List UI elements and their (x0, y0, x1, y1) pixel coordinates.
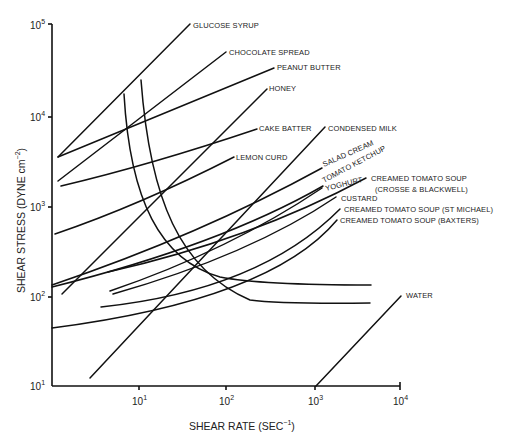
label-crosse-blackwell-1: CREAMED TOMATO SOUP (371, 174, 467, 183)
y-tick-1e5: 105 (30, 18, 45, 31)
label-baxters: CREAMED TOMATO SOUP (BAXTERS) (340, 216, 479, 225)
curve-baxters (52, 220, 337, 328)
label-water: WATER (406, 291, 433, 300)
label-condensed-milk: CONDENSED MILK (328, 124, 397, 133)
label-lemon-curd: LEMON CURD (236, 153, 288, 162)
label-peanut-butter: PEANUT BUTTER (277, 63, 341, 72)
curve-lemon-curd (55, 157, 234, 234)
curve-descending-b (141, 80, 370, 303)
x-tick-1e2: 102 (219, 394, 234, 407)
label-chocolate-spread: CHOCOLATE SPREAD (229, 48, 310, 57)
curve-tomato-ketchup (52, 186, 323, 287)
curve-labels: GLUCOSE SYRUP CHOCOLATE SPREAD PEANUT BU… (193, 21, 493, 300)
x-tick-labels: 101 102 103 104 (132, 394, 408, 407)
x-tick-1e3: 103 (308, 394, 323, 407)
y-axis-title: SHEAR STRESS (DYNE cm−2) (14, 148, 27, 293)
y-tick-1e2: 102 (30, 290, 45, 303)
label-custard: CUSTARD (341, 194, 378, 203)
y-tick-labels: 105 104 103 102 101 (30, 18, 45, 392)
y-tick-1e3: 103 (30, 200, 45, 213)
label-honey: HONEY (269, 84, 296, 93)
x-tick-1e4: 104 (393, 394, 408, 407)
label-st-michael: CREAMED TOMATO SOUP (ST MICHAEL) (344, 205, 493, 214)
x-axis-title: SHEAR RATE (SEC−1) (189, 419, 295, 432)
label-cake-batter: CAKE BATTER (259, 124, 312, 133)
curve-cake-batter (61, 129, 257, 186)
curve-glucose-syrup (58, 24, 190, 157)
curve-water (316, 296, 401, 386)
label-crosse-blackwell-2: (CROSSE & BLACKWELL) (375, 185, 468, 194)
rheology-chart: 105 104 103 102 101 101 102 103 104 SHEA… (0, 0, 509, 440)
label-glucose-syrup: GLUCOSE SYRUP (193, 21, 259, 30)
curve-honey (62, 89, 267, 294)
curve-salad-cream (52, 168, 322, 285)
y-tick-1e1: 101 (30, 379, 45, 392)
x-tick-1e1: 101 (132, 394, 147, 407)
curve-peanut-butter (58, 68, 274, 157)
y-tick-1e4: 104 (30, 110, 45, 123)
